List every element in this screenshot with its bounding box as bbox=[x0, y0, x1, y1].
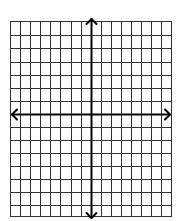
coordinate-plane bbox=[0, 0, 182, 221]
